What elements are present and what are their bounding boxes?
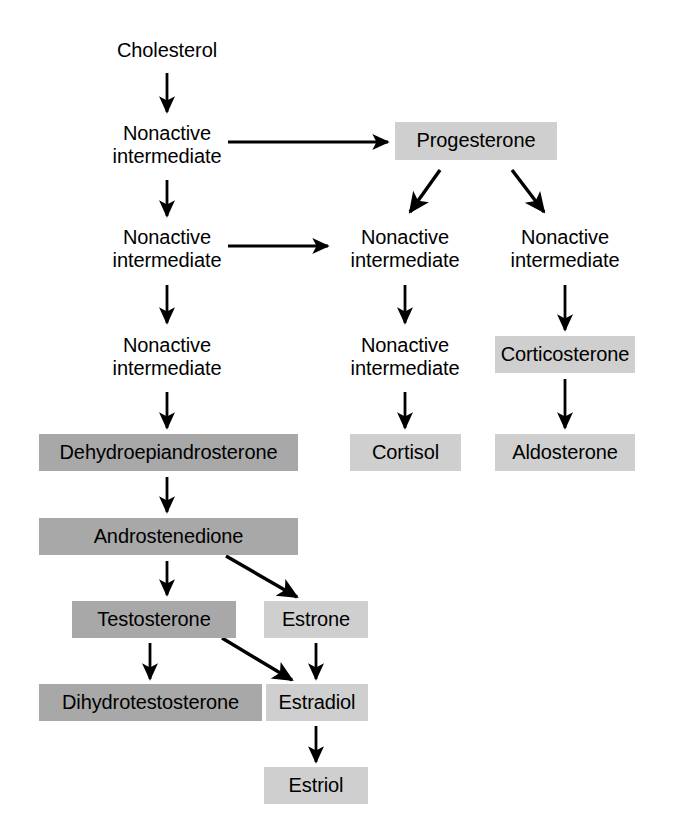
node-corticosterone: Corticosterone (495, 336, 635, 373)
node-aldosterone: Aldosterone (495, 434, 635, 471)
node-label-estrone: Estrone (282, 608, 350, 631)
node-nonactive-3: Nonactive intermediate (334, 222, 476, 276)
node-label-nonactive-3: Nonactive intermediate (351, 226, 460, 272)
node-label-nonactive-4: Nonactive intermediate (511, 226, 620, 272)
node-nonactive-5: Nonactive intermediate (96, 330, 238, 384)
node-androstenedione: Androstenedione (39, 518, 298, 555)
node-label-nonactive-5: Nonactive intermediate (113, 334, 222, 380)
arrow-testosterone-to-estradiol (222, 638, 292, 680)
node-estriol: Estriol (264, 767, 368, 804)
node-label-estriol: Estriol (289, 774, 344, 797)
node-label-corticosterone: Corticosterone (501, 343, 630, 366)
node-label-aldosterone: Aldosterone (512, 441, 618, 464)
node-label-cortisol: Cortisol (372, 441, 439, 464)
node-dehydroepiandrosterone: Dehydroepiandrosterone (39, 434, 298, 471)
node-label-estradiol: Estradiol (279, 691, 356, 714)
steroidogenesis-diagram: CholesterolNonactive intermediateProgest… (0, 0, 686, 833)
node-label-progesterone: Progesterone (417, 129, 536, 152)
arrow-progesterone-to-nonactive-3 (410, 170, 440, 212)
arrow-androstenedione-to-estrone (226, 556, 297, 597)
node-progesterone: Progesterone (395, 122, 557, 160)
node-cholesterol: Cholesterol (104, 36, 230, 66)
node-label-cholesterol: Cholesterol (117, 39, 217, 62)
node-label-androstenedione: Androstenedione (94, 525, 244, 548)
node-cortisol: Cortisol (350, 434, 461, 471)
node-dihydrotestosterone: Dihydrotestosterone (39, 684, 262, 721)
node-estrone: Estrone (264, 601, 368, 638)
node-testosterone: Testosterone (72, 601, 236, 638)
node-nonactive-6: Nonactive intermediate (334, 330, 476, 384)
node-nonactive-4: Nonactive intermediate (494, 222, 636, 276)
node-label-testosterone: Testosterone (97, 608, 210, 631)
node-label-nonactive-1: Nonactive intermediate (113, 122, 222, 168)
node-nonactive-2: Nonactive intermediate (96, 222, 238, 276)
node-nonactive-1: Nonactive intermediate (96, 118, 238, 172)
node-estradiol: Estradiol (266, 684, 368, 721)
arrow-progesterone-to-nonactive-4 (512, 170, 544, 212)
node-label-dehydroepiandrosterone: Dehydroepiandrosterone (60, 441, 278, 464)
node-label-nonactive-6: Nonactive intermediate (351, 334, 460, 380)
node-label-nonactive-2: Nonactive intermediate (113, 226, 222, 272)
node-label-dihydrotestosterone: Dihydrotestosterone (62, 691, 239, 714)
